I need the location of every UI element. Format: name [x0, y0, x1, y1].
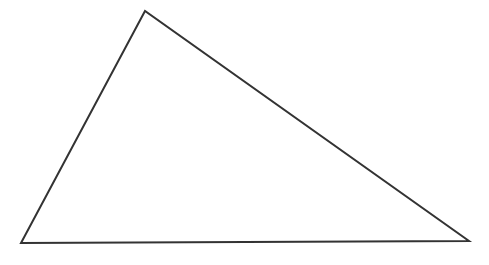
diagram-canvas [0, 0, 489, 265]
triangle-shape [21, 11, 469, 243]
